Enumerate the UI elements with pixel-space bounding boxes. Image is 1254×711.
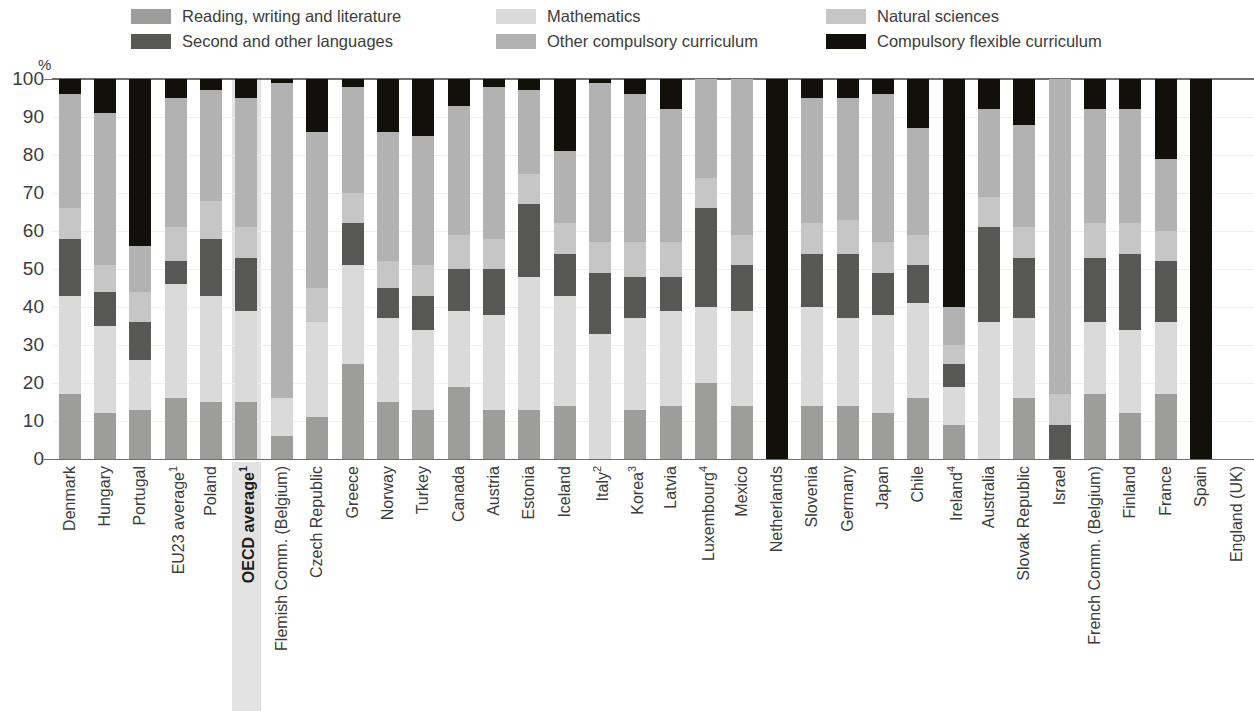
x-axis-label-israel[interactable]: Israel bbox=[1052, 466, 1068, 505]
bar[interactable] bbox=[1084, 79, 1106, 459]
bar[interactable] bbox=[448, 79, 470, 459]
x-axis-label-japan[interactable]: Japan bbox=[875, 466, 891, 510]
bar-slot-estonia[interactable] bbox=[512, 79, 547, 459]
bar[interactable] bbox=[129, 79, 151, 459]
bar-slot-israel[interactable] bbox=[1042, 79, 1077, 459]
bar-slot-hungary[interactable] bbox=[87, 79, 122, 459]
x-axis-label-germany[interactable]: Germany bbox=[840, 466, 856, 532]
x-axis-label-greece[interactable]: Greece bbox=[345, 466, 361, 518]
x-axis-label-slovenia[interactable]: Slovenia bbox=[804, 466, 820, 527]
bar-slot-australia[interactable] bbox=[971, 79, 1006, 459]
x-axis-label-italy[interactable]: Italy2 bbox=[589, 466, 610, 501]
bar[interactable] bbox=[94, 79, 116, 459]
bar-slot-mexico[interactable] bbox=[724, 79, 759, 459]
bar[interactable] bbox=[306, 79, 328, 459]
bar[interactable] bbox=[872, 79, 894, 459]
bar-slot-chile[interactable] bbox=[901, 79, 936, 459]
bar[interactable] bbox=[59, 79, 81, 459]
bar-slot-french-comm-belgium[interactable] bbox=[1077, 79, 1112, 459]
bar[interactable] bbox=[1049, 79, 1071, 459]
bar[interactable] bbox=[1155, 79, 1177, 459]
bar-slot-austria[interactable] bbox=[476, 79, 511, 459]
bar[interactable] bbox=[660, 79, 682, 459]
bar-slot-czech-republic[interactable] bbox=[300, 79, 335, 459]
bar[interactable] bbox=[554, 79, 576, 459]
bar-slot-greece[interactable] bbox=[335, 79, 370, 459]
x-axis-label-latvia[interactable]: Latvia bbox=[663, 466, 679, 509]
x-axis-label-turkey[interactable]: Turkey bbox=[415, 466, 431, 514]
bar[interactable] bbox=[1226, 79, 1248, 459]
bar[interactable] bbox=[271, 79, 293, 459]
x-axis-label-norway[interactable]: Norway bbox=[380, 466, 396, 520]
bar[interactable] bbox=[518, 79, 540, 459]
bar-slot-canada[interactable] bbox=[441, 79, 476, 459]
bar-slot-england-uk[interactable] bbox=[1219, 79, 1254, 459]
bar[interactable] bbox=[1119, 79, 1141, 459]
bar-slot-slovenia[interactable] bbox=[795, 79, 830, 459]
x-axis-label-flemish-comm-belgium[interactable]: Flemish Comm. (Belgium) bbox=[274, 466, 290, 651]
bar[interactable] bbox=[695, 79, 717, 459]
x-axis-label-iceland[interactable]: Iceland bbox=[557, 466, 573, 518]
bar[interactable] bbox=[766, 79, 788, 459]
x-axis-label-netherlands[interactable]: Netherlands bbox=[769, 466, 785, 552]
bar[interactable] bbox=[801, 79, 823, 459]
x-axis-label-canada[interactable]: Canada bbox=[451, 466, 467, 522]
bar-slot-latvia[interactable] bbox=[653, 79, 688, 459]
bar-slot-flemish-comm-belgium[interactable] bbox=[264, 79, 299, 459]
legend-item-languages[interactable]: Second and other languages bbox=[131, 29, 401, 54]
bar-slot-germany[interactable] bbox=[830, 79, 865, 459]
bar-slot-netherlands[interactable] bbox=[759, 79, 794, 459]
x-axis-label-austria[interactable]: Austria bbox=[486, 466, 502, 516]
bar[interactable] bbox=[483, 79, 505, 459]
bar-slot-italy[interactable] bbox=[582, 79, 617, 459]
bar[interactable] bbox=[731, 79, 753, 459]
x-axis-label-england-uk[interactable]: England (UK) bbox=[1229, 466, 1245, 562]
x-axis-label-slovak-republic[interactable]: Slovak Republic bbox=[1016, 466, 1032, 581]
bar-slot-denmark[interactable] bbox=[52, 79, 87, 459]
legend-item-mathematics[interactable]: Mathematics bbox=[496, 4, 758, 29]
bar-slot-eu23-average[interactable] bbox=[158, 79, 193, 459]
x-axis-label-australia[interactable]: Australia bbox=[981, 466, 997, 528]
bar[interactable] bbox=[943, 79, 965, 459]
legend-item-other_compulsory[interactable]: Other compulsory curriculum bbox=[496, 29, 758, 54]
legend-item-reading[interactable]: Reading, writing and literature bbox=[131, 4, 401, 29]
bar-slot-korea[interactable] bbox=[618, 79, 653, 459]
bar-slot-oecd-average[interactable] bbox=[229, 79, 264, 459]
bar[interactable] bbox=[837, 79, 859, 459]
bar[interactable] bbox=[342, 79, 364, 459]
bar-slot-portugal[interactable] bbox=[123, 79, 158, 459]
bar-slot-luxembourg[interactable] bbox=[688, 79, 723, 459]
bar-slot-ireland[interactable] bbox=[936, 79, 971, 459]
bar-slot-norway[interactable] bbox=[370, 79, 405, 459]
bar-slot-poland[interactable] bbox=[193, 79, 228, 459]
x-axis-label-hungary[interactable]: Hungary bbox=[97, 466, 113, 526]
x-axis-label-estonia[interactable]: Estonia bbox=[521, 466, 537, 519]
x-axis-label-finland[interactable]: Finland bbox=[1122, 466, 1138, 518]
x-axis-label-spain[interactable]: Spain bbox=[1193, 466, 1209, 507]
bar[interactable] bbox=[1190, 79, 1212, 459]
bar-slot-france[interactable] bbox=[1148, 79, 1183, 459]
x-axis-label-poland[interactable]: Poland bbox=[203, 466, 219, 516]
bar[interactable] bbox=[589, 79, 611, 459]
bar-slot-finland[interactable] bbox=[1113, 79, 1148, 459]
legend-item-natural_sciences[interactable]: Natural sciences bbox=[826, 4, 1102, 29]
x-axis-label-chile[interactable]: Chile bbox=[910, 466, 926, 502]
x-axis-label-denmark[interactable]: Denmark bbox=[62, 466, 78, 531]
bar[interactable] bbox=[235, 79, 257, 459]
bar-slot-spain[interactable] bbox=[1184, 79, 1219, 459]
bar-slot-japan[interactable] bbox=[865, 79, 900, 459]
x-axis-label-france[interactable]: France bbox=[1158, 466, 1174, 516]
bar-slot-slovak-republic[interactable] bbox=[1007, 79, 1042, 459]
bar[interactable] bbox=[377, 79, 399, 459]
legend-item-flexible[interactable]: Compulsory flexible curriculum bbox=[826, 29, 1102, 54]
bar[interactable] bbox=[624, 79, 646, 459]
x-axis-label-ireland[interactable]: Ireland4 bbox=[943, 466, 964, 521]
x-axis-label-mexico[interactable]: Mexico bbox=[734, 466, 750, 517]
bar[interactable] bbox=[200, 79, 222, 459]
bar[interactable] bbox=[412, 79, 434, 459]
x-axis-label-french-comm-belgium[interactable]: French Comm. (Belgium) bbox=[1087, 466, 1103, 645]
x-axis-label-portugal[interactable]: Portugal bbox=[132, 466, 148, 526]
x-axis-label-czech-republic[interactable]: Czech Republic bbox=[309, 466, 325, 578]
bar[interactable] bbox=[1013, 79, 1035, 459]
x-axis-label-luxembourg[interactable]: Luxembourg4 bbox=[695, 466, 716, 561]
